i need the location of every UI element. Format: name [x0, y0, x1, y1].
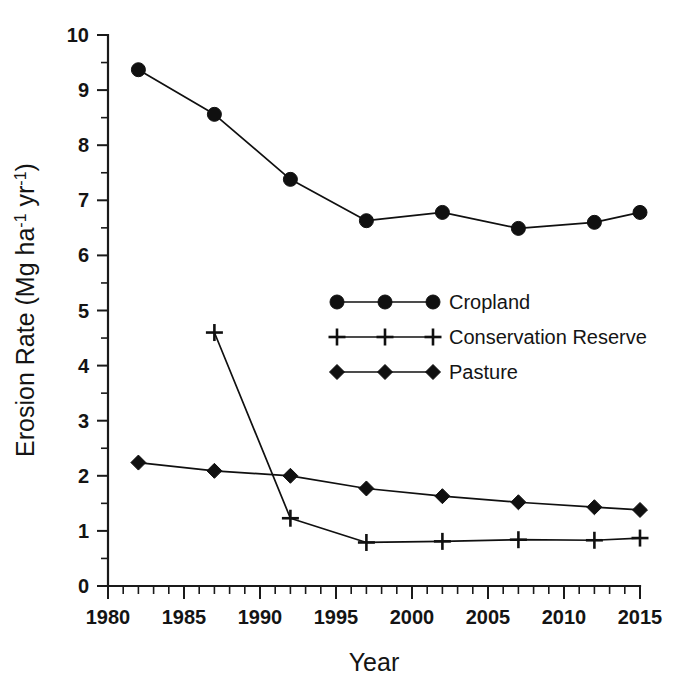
- legend-label: Conservation Reserve: [449, 326, 647, 348]
- y-tick-label: 0: [78, 575, 89, 597]
- data-point: [207, 463, 222, 478]
- data-point: [435, 489, 450, 504]
- y-tick-label: 9: [78, 79, 89, 101]
- data-point: [358, 534, 375, 551]
- data-point: [633, 205, 647, 219]
- data-point: [282, 510, 299, 527]
- legend-marker-plus: [377, 329, 394, 346]
- data-point: [587, 500, 602, 515]
- y-axis-title-sup1: -1: [12, 213, 29, 227]
- data-point: [283, 172, 297, 186]
- y-tick-label: 3: [78, 410, 89, 432]
- y-tick-label: 2: [78, 465, 89, 487]
- x-tick-label: 1985: [162, 606, 207, 628]
- data-point: [131, 63, 145, 77]
- x-tick-label: 1990: [238, 606, 283, 628]
- x-tick-label: 1980: [86, 606, 131, 628]
- legend-label: Pasture: [449, 361, 518, 383]
- x-tick-label: 2000: [390, 606, 435, 628]
- chart-legend: CroplandConservation ReservePasture: [329, 291, 647, 383]
- data-point: [633, 502, 648, 517]
- legend-marker-diamond: [426, 365, 441, 380]
- y-tick-label: 6: [78, 244, 89, 266]
- series-polyline: [138, 70, 640, 229]
- y-axis-title-suffix: ): [11, 163, 39, 171]
- y-axis-title: Erosion Rate (Mg ha-1 yr-1): [11, 163, 39, 457]
- x-tick-label: 2005: [466, 606, 511, 628]
- x-tick-label: 2010: [542, 606, 587, 628]
- data-point: [359, 214, 373, 228]
- y-axis-title-sup2: -1: [12, 171, 29, 185]
- y-tick-label: 1: [78, 520, 89, 542]
- series-conservation-reserve: [206, 324, 649, 551]
- legend-marker-plus: [329, 329, 346, 346]
- axis-lines: [108, 35, 640, 586]
- svg-text:Erosion Rate (Mg ha-1 yr-1): Erosion Rate (Mg ha-1 yr-1): [11, 163, 39, 457]
- data-point: [131, 455, 146, 470]
- x-tick-label: 1995: [314, 606, 359, 628]
- y-tick-label: 4: [78, 355, 90, 377]
- data-point: [435, 205, 449, 219]
- legend-item-pasture: Pasture: [330, 361, 518, 383]
- legend-marker-plus: [425, 329, 442, 346]
- y-tick-label: 8: [78, 134, 89, 156]
- data-point: [511, 495, 526, 510]
- legend-marker-circle: [426, 295, 440, 309]
- y-tick-label: 7: [78, 189, 89, 211]
- x-tick-label: 2015: [618, 606, 663, 628]
- data-point: [359, 481, 374, 496]
- data-point: [586, 532, 603, 549]
- data-point: [511, 221, 525, 235]
- legend-marker-circle: [330, 295, 344, 309]
- data-point: [510, 531, 527, 548]
- legend-item-conservation-reserve: Conservation Reserve: [329, 326, 647, 348]
- y-tick-label: 10: [67, 24, 89, 46]
- data-point: [207, 107, 221, 121]
- legend-marker-diamond: [378, 365, 393, 380]
- legend-item-cropland: Cropland: [330, 291, 530, 313]
- series-polyline: [214, 333, 640, 543]
- legend-label: Cropland: [449, 291, 530, 313]
- y-axis-title-prefix: Erosion Rate (Mg ha: [11, 228, 39, 457]
- x-axis-title: Year: [349, 648, 400, 676]
- chart-canvas: 0123456789101980198519901995200020052010…: [0, 0, 677, 687]
- data-point: [632, 530, 649, 547]
- data-point: [206, 324, 223, 341]
- data-point: [587, 215, 601, 229]
- legend-marker-diamond: [330, 365, 345, 380]
- data-point: [283, 468, 298, 483]
- series-pasture: [131, 455, 648, 517]
- series-cropland: [131, 63, 647, 236]
- data-point: [434, 533, 451, 550]
- y-axis-title-middle: yr: [11, 186, 39, 214]
- legend-marker-circle: [378, 295, 392, 309]
- y-tick-label: 5: [78, 300, 89, 322]
- erosion-rate-chart-figure: 0123456789101980198519901995200020052010…: [0, 0, 677, 687]
